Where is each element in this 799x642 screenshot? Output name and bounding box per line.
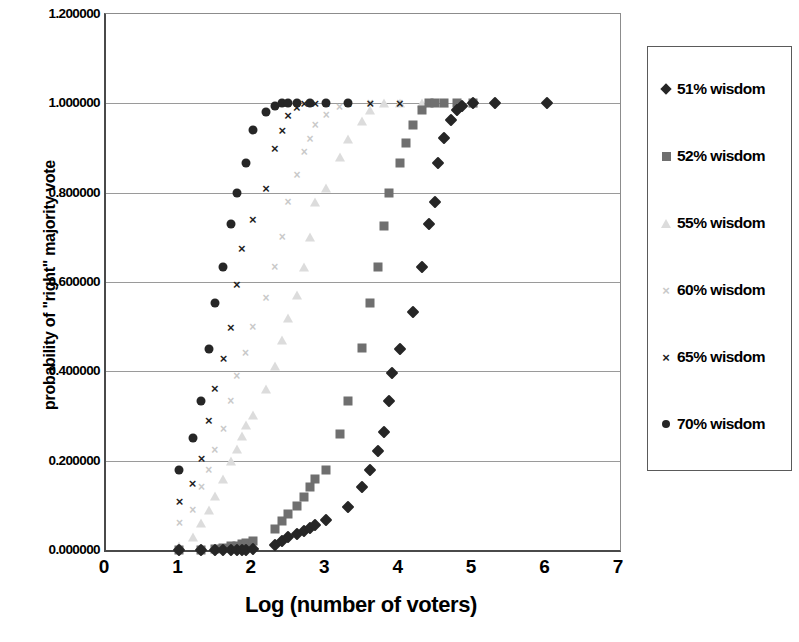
legend-marker-icon xyxy=(656,416,676,432)
legend-item[interactable]: 70% wisdom xyxy=(656,412,788,436)
legend-item-label: 70% wisdom xyxy=(677,415,765,433)
legend-marker-icon xyxy=(656,148,676,164)
legend-item-label: 55% wisdom xyxy=(677,214,765,232)
y-axis-tick-label: 0.200000 xyxy=(4,452,100,467)
legend-item[interactable]: 52% wisdom xyxy=(656,144,788,168)
legend-item[interactable]: ×60% wisdom xyxy=(656,278,788,302)
legend-item[interactable]: 51% wisdom xyxy=(656,77,788,101)
x-axis-tick-label: 0 xyxy=(84,556,124,578)
y-axis-tick-label: 1.000000 xyxy=(4,95,100,110)
x-axis-tick-labels: 01234567 xyxy=(104,0,618,642)
y-axis-tick-label: 1.200000 xyxy=(4,6,100,21)
scatter-chart-figure: probability of "right" majority vote 0.0… xyxy=(0,0,799,642)
x-axis-tick-label: 2 xyxy=(231,556,271,578)
legend-marker-icon xyxy=(656,215,676,231)
x-axis-tick-label: 7 xyxy=(598,556,638,578)
legend-marker-icon xyxy=(656,81,676,97)
legend-marker-icon: × xyxy=(656,349,676,365)
y-axis-tick-labels: 0.0000000.2000000.4000000.6000000.800000… xyxy=(0,0,100,642)
chart-legend: 51% wisdom52% wisdom55% wisdom×60% wisdo… xyxy=(647,46,792,471)
x-axis-tick-label: 4 xyxy=(378,556,418,578)
legend-marker-icon: × xyxy=(656,282,676,298)
legend-item-label: 65% wisdom xyxy=(677,348,765,366)
x-axis-tick-label: 3 xyxy=(304,556,344,578)
legend-item-label: 60% wisdom xyxy=(677,281,765,299)
y-axis-tick-label: 0.600000 xyxy=(4,274,100,289)
x-axis-tick-label: 6 xyxy=(525,556,565,578)
x-axis-tick-label: 5 xyxy=(451,556,491,578)
x-axis-title: Log (number of voters) xyxy=(104,592,618,618)
y-axis-tick-label: 0.400000 xyxy=(4,363,100,378)
x-axis-tick-label: 1 xyxy=(157,556,197,578)
legend-item[interactable]: ×65% wisdom xyxy=(656,345,788,369)
y-axis-tick-label: 0.800000 xyxy=(4,184,100,199)
y-axis-tick-label: 0.000000 xyxy=(4,542,100,557)
legend-item[interactable]: 55% wisdom xyxy=(656,211,788,235)
legend-item-label: 52% wisdom xyxy=(677,147,765,165)
legend-item-label: 51% wisdom xyxy=(677,80,765,98)
